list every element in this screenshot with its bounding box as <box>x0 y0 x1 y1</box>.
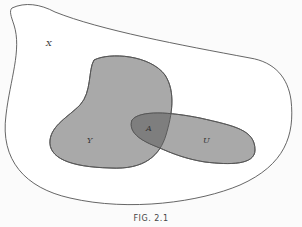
label-u: U <box>203 136 210 145</box>
label-x: X <box>45 39 52 48</box>
figure-caption: FIG. 2.1 <box>0 214 302 223</box>
label-y: Y <box>87 136 93 145</box>
venn-diagram: X Y A U <box>0 0 302 227</box>
label-a: A <box>145 124 152 133</box>
